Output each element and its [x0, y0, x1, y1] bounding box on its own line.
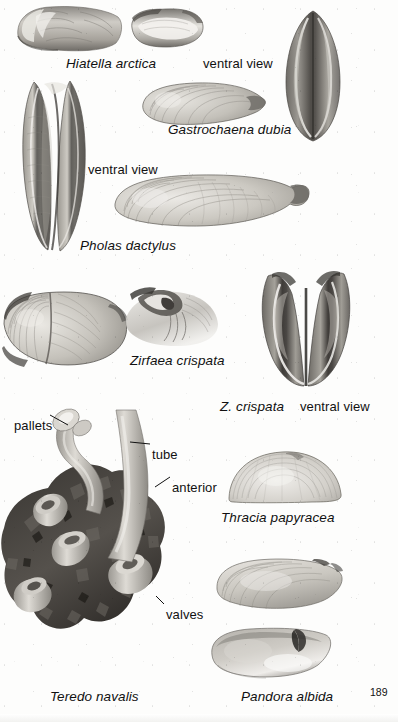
specimen-pholas-dactylus-ventral [18, 78, 92, 254]
label-zirfaea-crispata: Zirfaea crispata [130, 354, 225, 368]
label-ventral-view-zirfaea: ventral view [300, 400, 370, 413]
specimen-pandora-albida-valve-2 [208, 625, 336, 681]
specimen-hiatella-arctica-ventral [128, 6, 206, 50]
page-number: 189 [370, 686, 388, 698]
label-pallets: pallets [14, 419, 52, 432]
specimen-zirfaea-crispata-hinge [118, 284, 222, 350]
specimen-thracia-papyracea-valve [226, 448, 344, 504]
label-gastrochaena-dubia: Gastrochaena dubia [168, 123, 291, 137]
label-ventral-view-pholas: ventral view [88, 163, 158, 176]
label-valves: valves [166, 608, 203, 621]
label-pandora-albida: Pandora albida [241, 690, 333, 704]
label-hiatella-arctica: Hiatella arctica [66, 57, 156, 71]
specimen-gastrochaena-dubia-lateral [140, 80, 268, 128]
label-z-crispata: Z. crispata [220, 400, 284, 414]
specimen-zirfaea-crispata-ventral [258, 270, 354, 388]
label-tube: tube [152, 448, 178, 461]
label-thracia-papyracea: Thracia papyracea [221, 511, 335, 525]
label-teredo-navalis: Teredo navalis [50, 690, 139, 704]
specimen-zirfaea-crispata-lateral [2, 288, 130, 370]
label-ventral-view-top: ventral view [203, 57, 273, 70]
specimen-pholas-dactylus-lateral [112, 172, 312, 230]
label-anterior: anterior [172, 481, 217, 494]
specimen-pandora-albida-valve-1 [214, 555, 346, 613]
label-pholas-dactylus: Pholas dactylus [80, 239, 176, 253]
page-bottom-edge [0, 714, 398, 722]
plate-canvas: Hiatella arctica ventral view Gastrochae… [0, 0, 398, 722]
specimen-hiatella-arctica-lateral [12, 2, 124, 54]
